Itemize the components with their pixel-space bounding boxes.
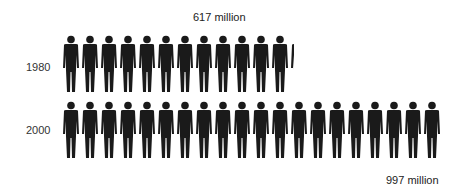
person-icon [328,101,346,159]
person-icon [233,35,251,93]
person-icon [214,101,232,159]
person-icon [81,35,99,93]
person-icon [119,101,137,159]
person-icon [138,101,156,159]
person-icon [195,35,213,93]
person-icon [290,101,308,159]
row-label-2000: 2000 [26,124,50,136]
value-label-2000: 997 million [386,174,439,185]
person-icon [252,35,270,93]
person-icon [214,35,232,93]
person-icon [195,101,213,159]
person-icon [271,101,289,159]
person-icon [81,101,99,159]
person-icon-partial [290,35,294,93]
person-icon [176,35,194,93]
person-icon [385,101,403,159]
person-icon [366,101,384,159]
person-icon [138,35,156,93]
person-icon [423,101,441,159]
person-icon [119,35,137,93]
person-icon [100,101,118,159]
person-icon [252,101,270,159]
person-icon [347,101,365,159]
person-icon [404,101,422,159]
person-icon [157,101,175,159]
icon-row-2000 [62,101,452,159]
person-icon [100,35,118,93]
person-icon [176,101,194,159]
person-icon [233,101,251,159]
person-icon [271,35,289,93]
row-label-1980: 1980 [26,61,50,73]
person-icon [157,35,175,93]
person-icon [309,101,327,159]
person-icon [62,35,80,93]
icon-row-1980 [62,35,302,93]
value-label-1980: 617 million [193,11,246,23]
person-icon [62,101,80,159]
